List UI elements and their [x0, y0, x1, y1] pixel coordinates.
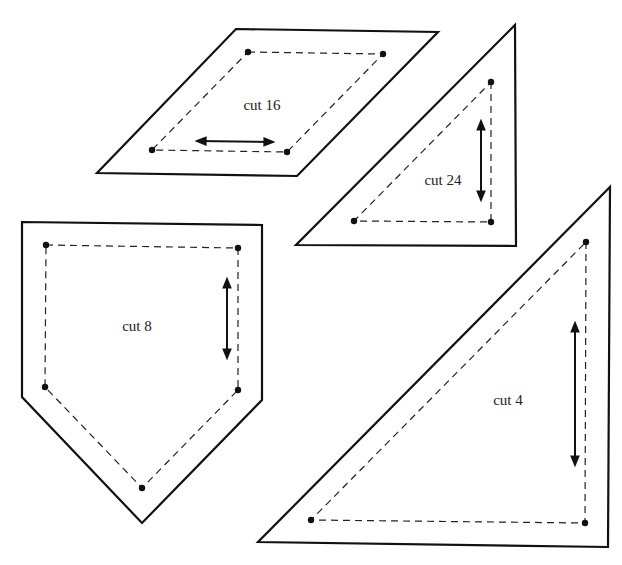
piece-label: cut 8 — [122, 318, 152, 334]
cutting-outline — [22, 222, 262, 523]
piece-label: cut 24 — [424, 172, 462, 188]
piece-house: cut 8 — [22, 222, 262, 523]
piece-label: cut 16 — [243, 97, 281, 113]
grainline-arrow — [197, 141, 273, 142]
quilt-template-diagram: cut 16 cut 24 cut 8 — [0, 0, 622, 565]
piece-label: cut 4 — [493, 392, 523, 408]
